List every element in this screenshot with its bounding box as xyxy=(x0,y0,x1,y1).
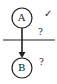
node-a-label: A xyxy=(18,13,25,23)
node-a-status-check-icon: ✓ xyxy=(44,9,52,19)
edge-label: ? xyxy=(38,28,43,37)
node-b-status: ? xyxy=(39,58,44,67)
arrowhead-icon xyxy=(19,52,26,58)
node-b-label: B xyxy=(18,63,25,73)
